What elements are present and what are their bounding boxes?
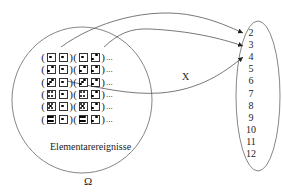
pip <box>83 116 85 118</box>
open-paren: ( <box>73 114 77 125</box>
outcome-row: ()()... <box>41 89 113 100</box>
pip <box>51 120 53 122</box>
die-face-4-icon <box>79 90 88 99</box>
pip <box>48 95 50 97</box>
outcome-row: ()()... <box>41 77 113 88</box>
open-paren: ( <box>41 114 45 125</box>
random-variable-diagram: ()()...()()...()()...()()...()()...()().… <box>0 0 283 195</box>
open-paren: ( <box>41 101 45 112</box>
ellipsis: ... <box>106 101 113 112</box>
pip <box>95 79 97 81</box>
pip <box>91 58 93 60</box>
open-paren: ( <box>73 52 77 63</box>
pip <box>61 68 63 70</box>
pip <box>95 116 97 118</box>
die-face-1-icon <box>59 115 68 124</box>
codomain-value: 3 <box>243 39 259 50</box>
pip <box>48 91 50 93</box>
codomain-value: 6 <box>243 75 259 86</box>
pip <box>51 107 53 109</box>
die-face-1-icon <box>59 102 68 111</box>
pip <box>51 95 53 97</box>
codomain-value: 4 <box>243 51 259 62</box>
pip <box>51 116 53 118</box>
codomain-value: 12 <box>243 148 259 159</box>
die-face-2-icon <box>91 90 100 99</box>
ellipsis: ... <box>106 89 113 100</box>
open-paren: ( <box>73 101 77 112</box>
die-face-3-icon <box>47 78 56 87</box>
pip <box>61 93 63 95</box>
die-face-1-icon <box>79 53 88 62</box>
pip <box>95 66 97 68</box>
pip <box>61 56 63 58</box>
open-paren: ( <box>41 77 45 88</box>
die-face-2-icon <box>91 78 100 87</box>
pip <box>79 83 81 85</box>
codomain-value: 10 <box>243 124 259 135</box>
die-face-1-icon <box>59 90 68 99</box>
pip <box>83 95 85 97</box>
die-face-2-icon <box>91 102 100 111</box>
pip <box>91 107 93 109</box>
pip <box>95 103 97 105</box>
outcome-row: ()()... <box>41 101 113 112</box>
die-face-6-icon <box>79 115 88 124</box>
open-paren: ( <box>41 52 45 63</box>
elementary-events-caption: Elementarereignisse <box>50 142 131 152</box>
pip <box>83 107 85 109</box>
die-face-6-icon <box>47 115 56 124</box>
die-face-2-icon <box>91 115 100 124</box>
arrow-to-3 <box>104 29 243 47</box>
codomain-value: 11 <box>243 136 259 147</box>
open-paren: ( <box>41 64 45 75</box>
codomain-value: 5 <box>243 63 259 74</box>
pip <box>83 66 85 68</box>
close-paren: ) <box>101 101 105 112</box>
die-face-3-icon <box>79 78 88 87</box>
codomain-value: 8 <box>243 100 259 111</box>
pip <box>80 91 82 93</box>
pip <box>83 91 85 93</box>
pip <box>83 120 85 122</box>
pip <box>81 56 83 58</box>
die-face-2-icon <box>47 65 56 74</box>
ellipsis: ... <box>106 77 113 88</box>
close-paren: ) <box>101 114 105 125</box>
pip <box>47 83 49 85</box>
ellipsis: ... <box>106 64 113 75</box>
die-face-1-icon <box>47 53 56 62</box>
open-paren: ( <box>41 89 45 100</box>
pip <box>49 56 51 58</box>
die-face-5-icon <box>79 102 88 111</box>
open-paren: ( <box>73 64 77 75</box>
codomain-value: 9 <box>243 112 259 123</box>
pip <box>61 118 63 120</box>
pip <box>91 70 93 72</box>
open-paren: ( <box>73 89 77 100</box>
pip <box>48 107 50 109</box>
outcome-row: ()()... <box>41 114 113 125</box>
close-paren: ) <box>101 52 105 63</box>
pip <box>95 91 97 93</box>
die-face-2-icon <box>91 65 100 74</box>
pip <box>80 107 82 109</box>
mapping-label-x: X <box>182 72 189 82</box>
open-paren: ( <box>73 77 77 88</box>
die-face-2-icon <box>91 53 100 62</box>
codomain-value: 7 <box>243 88 259 99</box>
pip <box>61 81 63 83</box>
outcome-row: ()()... <box>41 52 113 63</box>
die-face-1-icon <box>59 65 68 74</box>
pip <box>79 70 81 72</box>
die-face-1-icon <box>59 53 68 62</box>
pip <box>47 70 49 72</box>
close-paren: ) <box>101 64 105 75</box>
pip <box>91 120 93 122</box>
close-paren: ) <box>101 77 105 88</box>
die-face-1-icon <box>59 78 68 87</box>
arrow-to-2 <box>61 13 243 47</box>
pip <box>80 95 82 97</box>
pip <box>51 66 53 68</box>
pip <box>51 91 53 93</box>
